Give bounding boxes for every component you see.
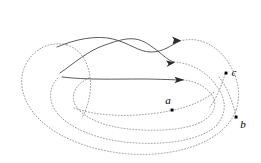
solid-strand-wave (60, 39, 174, 73)
dotted-loop-outer-arc-top (67, 45, 91, 118)
dotted-tail-c (210, 74, 225, 107)
figure-container: a b c (0, 0, 261, 163)
point-marker-b (235, 116, 238, 119)
dotted-loop-outer-right (180, 40, 239, 110)
dotted-loop-inner-right (183, 80, 215, 123)
point-label-a: a (165, 94, 171, 106)
solid-strand-upper (57, 37, 180, 52)
curve-diagram: a b c (0, 0, 261, 163)
point-marker-c (225, 72, 228, 75)
dotted-tail-b (219, 77, 236, 116)
point-label-b: b (240, 118, 246, 130)
dotted-loop-inner-left (73, 78, 89, 102)
dotted-loop-outer-left (22, 44, 67, 121)
point-label-c: c (232, 66, 237, 78)
dotted-loop-inner-bottom (74, 102, 199, 130)
dotted-arc-through-a (74, 92, 214, 115)
dotted-loop-middle-left (51, 77, 59, 114)
arrow-head-top-icon (172, 37, 181, 45)
dotted-loop-middle-right (174, 62, 224, 125)
solid-strand-lower (62, 77, 183, 80)
point-marker-a (171, 109, 174, 112)
